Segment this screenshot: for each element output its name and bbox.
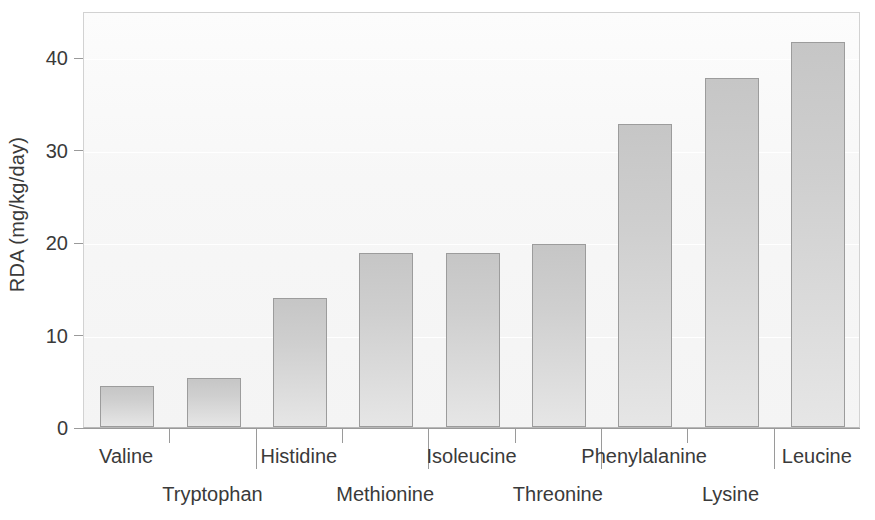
x-axis: ValineTryptophanHistidineMethionineIsole…: [83, 428, 860, 520]
x-axis-label-threonine: Threonine: [513, 484, 603, 504]
x-axis-label-phenylalanine: Phenylalanine: [581, 446, 707, 466]
x-axis-label-leucine: Leucine: [782, 446, 852, 466]
y-axis-title-text: RDA (mg/kg/day): [7, 136, 30, 291]
x-axis-tick-mark: [774, 429, 775, 469]
x-axis-line: [83, 428, 860, 429]
y-axis-tick-label: 40: [46, 48, 74, 68]
bar-valine: [100, 386, 154, 427]
y-axis-tick-mark: [74, 428, 83, 429]
y-axis-tick-label: 30: [46, 141, 74, 161]
y-axis-tick-mark: [74, 335, 83, 336]
x-axis-tick-mark: [687, 429, 688, 443]
y-axis-tick-mark: [74, 243, 83, 244]
bar-tryptophan: [187, 378, 241, 427]
bar-threonine: [532, 244, 586, 427]
bar-isoleucine: [446, 253, 500, 427]
x-axis-label-lysine: Lysine: [702, 484, 759, 504]
y-axis-tick-mark: [74, 150, 83, 151]
x-axis-label-histidine: Histidine: [260, 446, 337, 466]
x-axis-label-isoleucine: Isoleucine: [426, 446, 516, 466]
y-axis-tick-label: 20: [46, 233, 74, 253]
plot-area: [83, 12, 860, 428]
bar-phenylalanine: [618, 124, 672, 427]
bar-leucine: [791, 42, 845, 427]
y-axis-title: RDA (mg/kg/day): [0, 0, 36, 428]
x-axis-tick-mark: [342, 429, 343, 443]
bar-lysine: [705, 78, 759, 427]
y-axis-tick-mark: [74, 58, 83, 59]
x-axis-tick-mark: [169, 429, 170, 443]
y-axis-tick-label: 0: [57, 418, 74, 438]
bar-chart: RDA (mg/kg/day) 403020100 ValineTryptoph…: [0, 0, 875, 520]
bar-methionine: [359, 253, 413, 427]
bars-group: [84, 13, 859, 427]
x-axis-label-valine: Valine: [99, 446, 153, 466]
y-axis: 403020100: [36, 0, 83, 520]
x-axis-tick-mark: [256, 429, 257, 469]
y-axis-tick-label: 10: [46, 326, 74, 346]
x-axis-label-tryptophan: Tryptophan: [162, 484, 262, 504]
x-axis-tick-mark: [515, 429, 516, 443]
bar-histidine: [273, 298, 327, 427]
x-axis-label-methionine: Methionine: [336, 484, 434, 504]
